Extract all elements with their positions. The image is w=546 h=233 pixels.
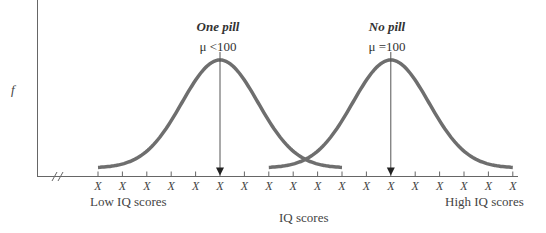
x-tick-label: X (143, 179, 150, 194)
mean-label-one-pill: μ <100 (199, 39, 236, 55)
y-axis-label: f (11, 82, 15, 98)
x-tick-label: X (216, 179, 223, 194)
x-axis-title: IQ scores (279, 210, 328, 226)
curve-title-no-pill: No pill (369, 19, 405, 35)
x-tick-label: X (387, 179, 394, 194)
x-tick-label: X (436, 179, 443, 194)
x-tick-label: X (314, 179, 321, 194)
x-tick-label: X (265, 179, 272, 194)
x-tick-label: X (412, 179, 419, 194)
x-ticks (98, 172, 513, 177)
x-tick-label: X (509, 179, 516, 194)
high-iq-label: High IQ scores (445, 194, 524, 210)
curve-title-one-pill: One pill (197, 19, 240, 35)
x-tick-label: X (290, 179, 297, 194)
x-tick-label: X (94, 179, 101, 194)
curves (98, 52, 513, 176)
x-tick-label: X (363, 179, 370, 194)
x-tick-label: X (119, 179, 126, 194)
x-tick-label: X (485, 179, 492, 194)
x-tick-label: X (241, 179, 248, 194)
figure: f One pill μ <100 No pill μ =100 XXXXXXX… (0, 0, 546, 233)
mean-label-no-pill: μ =100 (368, 39, 405, 55)
x-tick-label: X (338, 179, 345, 194)
x-tick-label: X (168, 179, 175, 194)
low-iq-label: Low IQ scores (90, 194, 167, 210)
x-tick-label: X (192, 179, 199, 194)
arrow-down-icon (387, 168, 395, 176)
x-tick-label: X (460, 179, 467, 194)
arrow-down-icon (216, 168, 224, 176)
